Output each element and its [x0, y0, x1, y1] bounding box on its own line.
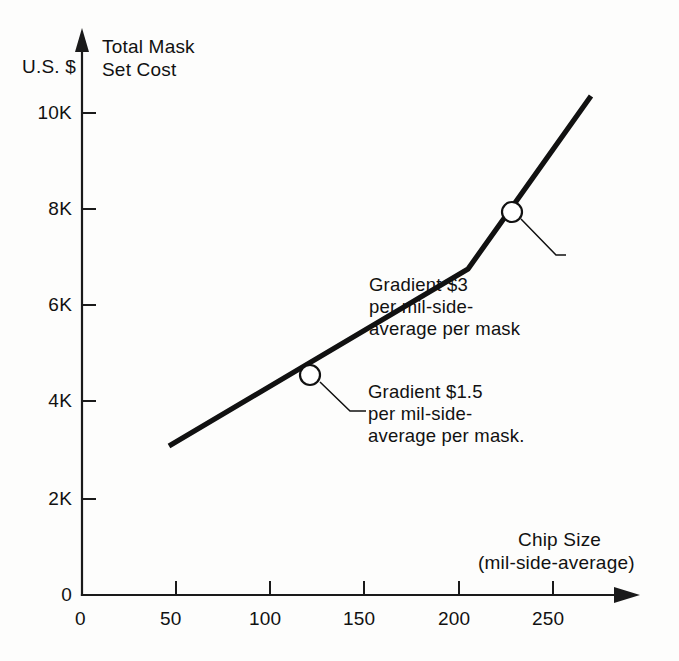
gradient-3-leader	[521, 219, 566, 255]
annotation-gradient-3-line-2: per mil-side-	[369, 296, 520, 318]
y-tick-label-10k: 10K	[10, 102, 72, 124]
annotation-gradient-1-5: Gradient $1.5 per mil-side- average per …	[368, 381, 525, 447]
x-axis	[82, 581, 640, 603]
annotation-gradient-3-line-1: Gradient $3	[369, 274, 520, 296]
annotation-gradient-3-line-3: average per mask	[369, 318, 520, 340]
y-axis-title-line-2: Set Cost	[102, 58, 176, 81]
gradient-1-5-leader	[320, 382, 366, 411]
x-tick-label-50: 50	[160, 608, 182, 630]
annotation-gradient-1-5-line-1: Gradient $1.5	[368, 381, 525, 403]
y-tick-label-8k: 8K	[10, 198, 72, 220]
x-tick-label-150: 150	[343, 608, 375, 630]
x-axis-title-line-1: Chip Size	[518, 528, 601, 551]
x-axis-arrowhead	[614, 587, 640, 603]
x-tick-label-200: 200	[438, 608, 470, 630]
x-axis-title-line-2: (mil-side-average)	[478, 551, 635, 574]
y-tick-label-4k: 4K	[10, 390, 72, 412]
x-tick-label-0: 0	[75, 608, 86, 630]
annotation-gradient-3: Gradient $3 per mil-side- average per ma…	[369, 274, 520, 340]
y-tick-label-6k: 6K	[10, 294, 72, 316]
chart-figure: U.S. $ Total Mask Set Cost 10K 8K 6K 4K …	[0, 0, 679, 661]
y-units-label: U.S. $	[22, 56, 76, 78]
y-tick-label-2k: 2K	[10, 488, 72, 510]
gradient-1-5-marker	[300, 365, 320, 385]
y-axis	[75, 28, 96, 595]
gradient-3-marker	[502, 202, 522, 222]
annotation-gradient-1-5-line-3: average per mask.	[368, 425, 525, 447]
x-tick-label-100: 100	[249, 608, 281, 630]
y-axis-title-line-1: Total Mask	[102, 35, 195, 58]
y-axis-arrowhead	[75, 28, 89, 52]
annotation-gradient-1-5-line-2: per mil-side-	[368, 403, 525, 425]
y-tick-label-0: 0	[10, 584, 72, 606]
x-tick-label-250: 250	[532, 608, 564, 630]
